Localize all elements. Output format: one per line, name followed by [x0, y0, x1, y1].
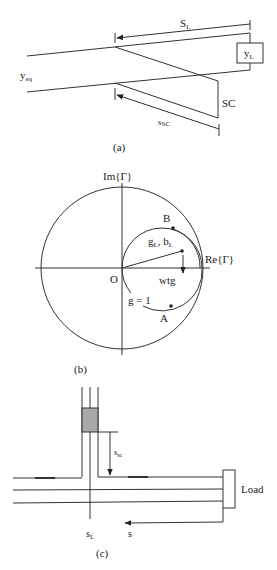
point-b-label: B [163, 212, 170, 224]
caption-b: (b) [74, 363, 87, 376]
sl-label-c: sL [86, 528, 94, 541]
load-radius [122, 251, 182, 268]
g1-circle-upper [122, 228, 202, 268]
caption-c: (c) [96, 547, 109, 560]
g1-label: g = 1 [128, 294, 151, 306]
sc-label: SC [222, 97, 235, 109]
panel-b: Im{Γ} Re{Γ} O B A gL, bL wtg g = 1 (b) [35, 170, 234, 376]
load-label: Load [241, 483, 264, 495]
caption-a: (a) [113, 141, 126, 154]
load-point-label: gL, bL [148, 235, 173, 249]
stub-upper [115, 47, 218, 81]
point-b [171, 226, 175, 230]
sl-label: SL [180, 17, 190, 31]
main-line-bottom [13, 501, 223, 503]
stub-matching-figure: yL SL yeq SC sSC (a) Im{Γ} Re{Γ} O [0, 0, 277, 570]
origin-label: O [110, 273, 118, 285]
short-circuit-block [82, 408, 98, 432]
s-axis-arrow [125, 522, 223, 523]
real-axis-label: Re{Γ} [205, 253, 234, 265]
point-a [169, 304, 173, 308]
ssc-label-c: ssc [114, 447, 123, 458]
imag-axis-label: Im{Γ} [103, 170, 132, 182]
g1-circle-lower-left [122, 268, 131, 293]
stub-lower [115, 83, 218, 118]
ssc-label: sSC [158, 117, 170, 128]
figure-svg: yL SL yeq SC sSC (a) Im{Γ} Re{Γ} O [0, 0, 277, 570]
s-axis-label: s [128, 528, 132, 539]
panel-c: ssc Load sL s (c) [13, 387, 264, 560]
panel-a: yL SL yeq SC sSC (a) [20, 17, 263, 154]
main-line-upper [27, 33, 250, 56]
load-block [223, 470, 235, 508]
point-a-label: A [160, 312, 168, 324]
main-line-center [13, 489, 223, 490]
yeq-label: yeq [20, 69, 33, 83]
wtg-label: wtg [159, 274, 176, 286]
